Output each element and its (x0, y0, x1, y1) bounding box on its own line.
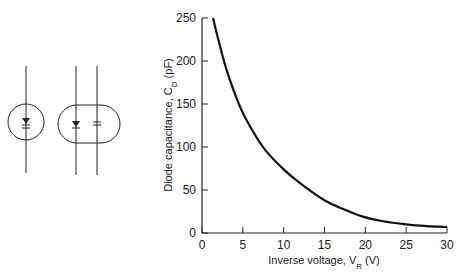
x-tick-label: 20 (359, 238, 373, 252)
y-tick-label: 100 (176, 140, 196, 154)
y-tick-label: 150 (176, 97, 196, 111)
ticks: 051015202530050100150200250 (176, 11, 454, 252)
x-tick-label: 0 (199, 238, 206, 252)
y-tick-label: 50 (183, 183, 197, 197)
capacitance-chart: 051015202530050100150200250 Inverse volt… (0, 0, 462, 272)
y-tick-label: 0 (189, 226, 196, 240)
x-tick-label: 30 (440, 238, 454, 252)
x-tick-label: 5 (239, 238, 246, 252)
y-tick-label: 250 (176, 11, 196, 25)
x-tick-label: 15 (318, 238, 332, 252)
series-line (213, 18, 447, 227)
x-tick-label: 10 (277, 238, 291, 252)
series (213, 18, 447, 227)
x-axis-title: Inverse voltage, VR (V) (268, 254, 380, 271)
y-tick-label: 200 (176, 54, 196, 68)
y-axis-title: Diode capacitance, CD (pF) (162, 58, 179, 192)
x-tick-label: 25 (399, 238, 413, 252)
